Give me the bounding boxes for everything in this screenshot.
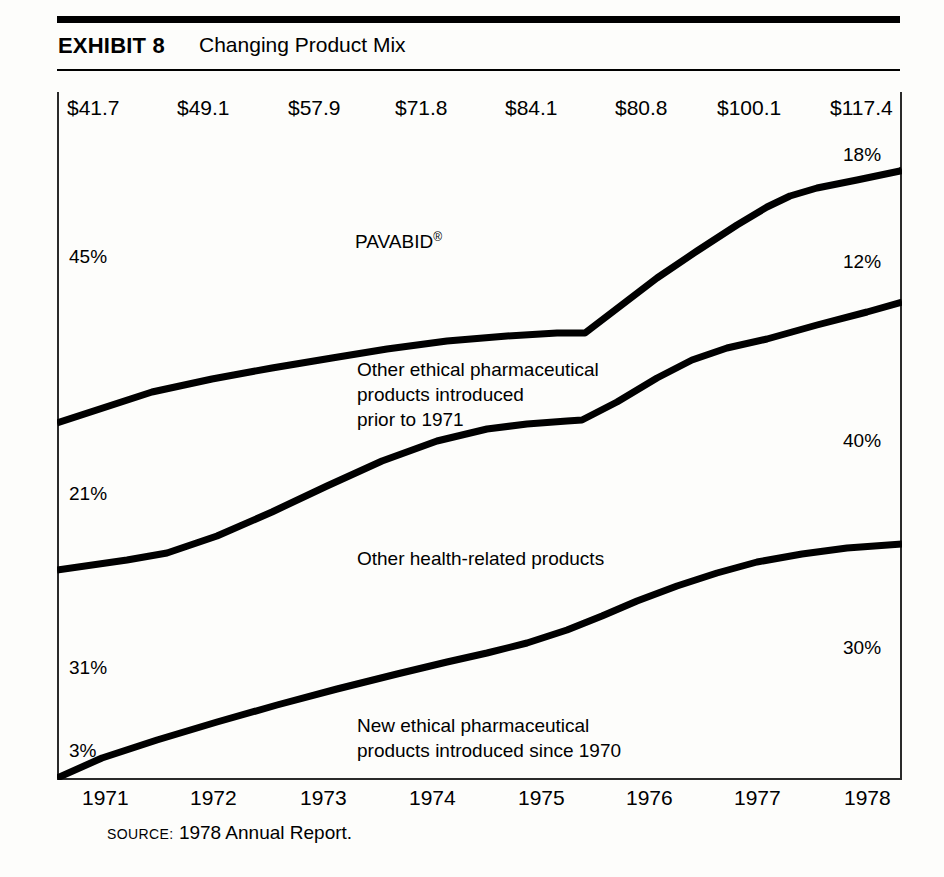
sales-value-row: $41.7 $49.1 $57.9 $71.8 $84.1 $80.8 $100… [57,96,902,126]
band-label-other-health: Other health-related products [357,546,604,571]
year-label-1972: 1972 [190,786,237,810]
left-pct-pavabid: 45% [69,246,107,268]
year-axis-row: 1971 1972 1973 1974 1975 1976 1977 1978 [57,786,902,816]
sales-value-1977: $100.1 [717,96,781,120]
exhibit-number-label: EXHIBIT 8 [58,33,165,59]
year-label-1971: 1971 [82,786,129,810]
year-label-1975: 1975 [518,786,565,810]
right-pct-new-ethical: 30% [843,637,881,659]
band-label-pavabid-text: PAVABID [355,231,433,252]
exhibit-title: Changing Product Mix [199,33,406,57]
left-pct-other-ethical: 21% [69,483,107,505]
sales-value-1974: $71.8 [395,96,448,120]
band-line-otherethical-lower [57,302,902,570]
year-label-1974: 1974 [409,786,456,810]
year-label-1978: 1978 [844,786,891,810]
chart-band-lines [57,92,902,780]
right-pct-pavabid: 18% [843,144,881,166]
sales-value-1976: $80.8 [615,96,668,120]
source-note-prefix: SOURCE: [107,826,174,842]
left-pct-other-health: 31% [69,657,107,679]
year-label-1977: 1977 [734,786,781,810]
sales-value-1972: $49.1 [177,96,230,120]
right-pct-other-ethical: 12% [843,251,881,273]
sales-value-1973: $57.9 [288,96,341,120]
sales-value-1975: $84.1 [505,96,558,120]
year-label-1976: 1976 [626,786,673,810]
year-label-1973: 1973 [300,786,347,810]
sales-value-1978: $117.4 [830,96,893,120]
band-label-pavabid: PAVABID® [355,225,442,254]
sales-value-1971: $41.7 [67,96,120,120]
band-label-new-ethical: New ethical pharmaceutical products intr… [357,713,621,763]
exhibit-page: EXHIBIT 8 Changing Product Mix $41.7 $49… [0,0,944,877]
right-pct-other-health: 40% [843,430,881,452]
header-rule-thick [57,16,900,23]
registered-trademark-icon: ® [433,230,442,244]
header-rule-thin [57,69,900,71]
source-note: SOURCE: 1978 Annual Report. [107,822,352,844]
left-pct-new-ethical: 3% [69,740,96,762]
source-note-value: 1978 Annual Report. [179,822,352,843]
band-label-other-ethical: Other ethical pharmaceutical products in… [357,357,599,432]
